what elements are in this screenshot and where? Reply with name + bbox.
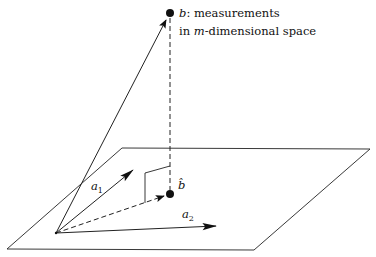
label-b-line2: in m-dimensional space [179,26,316,38]
diagram-canvas: b: measurements in m-dimensional space b… [0,0,376,257]
label-a2: a2 [182,209,194,223]
label-a1-sub: 1 [98,186,103,195]
label-b-line2-pre: in [179,24,194,38]
label-b-desc-line1: : measurements [186,6,279,20]
label-b-line2-post: -dimensional space [205,24,317,38]
origin-dot [55,232,57,234]
label-b-hat: b̂ [178,180,185,192]
label-b-hat-var: b̂ [178,178,185,192]
column-space-plane [7,148,370,250]
point-b-dot [166,9,174,17]
label-b: b: measurements [179,8,280,20]
vector-a2-line [56,226,216,233]
label-a1-var: a [91,179,98,193]
label-b-line2-var: m [194,24,205,38]
label-a1: a1 [91,181,103,195]
label-a2-sub: 2 [189,214,194,223]
label-a2-var: a [182,207,189,221]
right-angle-marker [145,166,170,203]
point-b-hat-dot [166,190,174,198]
